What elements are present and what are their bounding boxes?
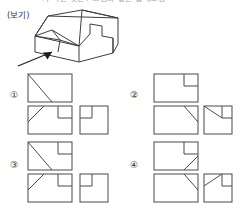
- option-2-number: ②: [130, 91, 138, 100]
- option-1-number: ①: [10, 91, 18, 100]
- option-2-front-view: [154, 106, 198, 134]
- option-1[interactable]: ①: [4, 72, 122, 136]
- option-3-front-view: [28, 174, 72, 202]
- option-1-top-view: [28, 74, 72, 102]
- question-page: 가 하는 것은? 그림과 같은 입체도형 (보기): [0, 0, 243, 211]
- option-4-views: [142, 140, 242, 206]
- option-1-views: [22, 72, 122, 136]
- option-2-side-view: [204, 106, 232, 134]
- option-2-top-view: [154, 74, 198, 102]
- option-2[interactable]: ②: [124, 72, 242, 136]
- solid-figure-svg: [30, 6, 130, 68]
- option-3-side-view: [80, 174, 108, 202]
- option-1-side-view: [80, 106, 108, 134]
- cutoff-header-label: 가 하는 것은? 그림과 같은 입체도형: [42, 0, 165, 3]
- bogi-label: (보기): [7, 8, 30, 20]
- option-4-number: ④: [130, 161, 138, 170]
- option-3-views: [22, 140, 122, 206]
- option-2-svg: [142, 72, 242, 136]
- option-3-svg: [22, 140, 122, 206]
- option-4-top-view: [154, 142, 198, 170]
- option-1-svg: [22, 72, 122, 136]
- option-2-views: [142, 72, 242, 136]
- option-4[interactable]: ④: [124, 140, 242, 208]
- option-4-front-view: [154, 174, 198, 202]
- option-3-top-view: [28, 142, 72, 170]
- option-1-front-view: [28, 106, 72, 134]
- option-4-side-view: [204, 174, 232, 202]
- option-3-number: ③: [10, 161, 18, 170]
- option-4-svg: [142, 140, 242, 206]
- option-3[interactable]: ③: [4, 140, 122, 208]
- solid-figure: [30, 6, 130, 68]
